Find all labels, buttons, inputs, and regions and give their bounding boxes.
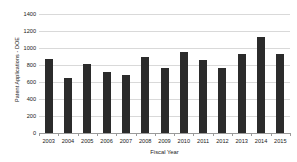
y-axis-tick-label: 400	[18, 96, 36, 102]
x-axis-tick-mark	[58, 133, 59, 136]
x-axis-tick-label: 2005	[77, 137, 97, 145]
x-axis-tick-label: 2007	[116, 137, 136, 145]
x-axis-tick-label: 2006	[97, 137, 117, 145]
x-axis-tick-mark	[78, 133, 79, 136]
bar	[276, 54, 284, 133]
x-axis-tick-mark	[97, 133, 98, 136]
x-axis-tick-label: 2010	[174, 137, 194, 145]
x-axis-tick-mark	[213, 133, 214, 136]
x-axis-tick-mark	[155, 133, 156, 136]
x-axis-tick-label: 2009	[155, 137, 175, 145]
x-axis-tick-mark	[193, 133, 194, 136]
x-axis-tick-mark	[116, 133, 117, 136]
bar	[257, 37, 265, 133]
x-axis-tick-label: 2004	[58, 137, 78, 145]
x-axis-tick-mark	[271, 133, 272, 136]
x-axis-title: Fiscal Year	[39, 148, 290, 156]
x-axis-tick-label: 2011	[193, 137, 213, 145]
x-axis-tick-mark	[251, 133, 252, 136]
x-axis-tick-mark	[232, 133, 233, 136]
x-axis-tick-mark	[174, 133, 175, 136]
y-axis-tick-label: 800	[18, 62, 36, 68]
y-axis-tick-labels: 0200400600800100012001400	[18, 0, 36, 162]
y-axis-tick-label: 1000	[18, 45, 36, 51]
x-axis-tick-label: 2014	[251, 137, 271, 145]
y-axis-tick-label: 0	[18, 130, 36, 136]
bar	[238, 54, 246, 133]
x-axis-tick-labels: 2003200420052006200720082009201020112012…	[39, 137, 290, 147]
x-axis-tick-mark	[290, 133, 291, 136]
y-axis-tick-label: 1200	[18, 28, 36, 34]
bar	[103, 72, 111, 133]
y-axis-tick-label: 600	[18, 79, 36, 85]
x-axis-tick-label: 2012	[212, 137, 232, 145]
bar	[180, 52, 188, 133]
bar	[199, 60, 207, 133]
x-axis-tick-label: 2003	[39, 137, 59, 145]
bar	[122, 75, 130, 133]
bar	[141, 57, 149, 134]
bar	[83, 64, 91, 133]
bar	[161, 68, 169, 133]
x-axis-tick-mark	[136, 133, 137, 136]
x-axis-tick-label: 2008	[135, 137, 155, 145]
y-axis-tick-label: 200	[18, 113, 36, 119]
x-axis-tick-label: 2013	[232, 137, 252, 145]
bar	[45, 59, 53, 133]
bar	[64, 78, 72, 133]
bars-layer	[39, 14, 290, 133]
x-axis-tick-label: 2015	[270, 137, 290, 145]
bar-chart-figure: Patent Applications - DOE 02004006008001…	[0, 0, 297, 162]
y-axis-tick-label: 1400	[18, 11, 36, 17]
x-axis-tick-mark	[39, 133, 40, 136]
bar	[218, 68, 226, 133]
